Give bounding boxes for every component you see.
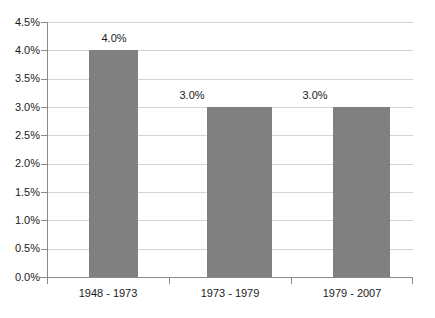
category-label-1973-1979: 1973 - 1979 [175, 288, 285, 299]
x-tick-boundary-2 [291, 278, 292, 284]
value-label-1948-1973: 4.0% [83, 33, 145, 44]
category-label-1979-2007: 1979 - 2007 [297, 288, 407, 299]
y-axis-label-4.0: 4.0% [2, 45, 40, 56]
y-axis-label-2.0: 2.0% [2, 158, 40, 169]
y-axis-label-4.5: 4.5% [2, 17, 40, 28]
gridline-4.5 [47, 22, 413, 23]
y-axis-label-3.5: 3.5% [2, 73, 40, 84]
y-axis-label-0.5: 0.5% [2, 243, 40, 254]
y-axis-label-1.5: 1.5% [2, 187, 40, 198]
y-axis-label-0.0: 0.0% [2, 272, 40, 283]
x-tick-start [47, 278, 48, 284]
value-label-1973-1979: 3.0% [161, 90, 223, 101]
x-tick-boundary-1 [169, 278, 170, 284]
y-axis-line [47, 22, 48, 278]
value-label-1979-2007: 3.0% [284, 90, 346, 101]
x-axis-line [40, 277, 413, 278]
plot-area [47, 22, 413, 277]
bar-1979-2007 [333, 107, 390, 277]
bar-chart: 4.5% 4.0% 3.5% 3.0% 2.5% 2.0% 1.5% 1.0% … [0, 0, 435, 318]
y-axis-labels: 4.5% 4.0% 3.5% 3.0% 2.5% 2.0% 1.5% 1.0% … [0, 0, 40, 318]
x-tick-end [412, 278, 413, 284]
y-axis-label-1.0: 1.0% [2, 215, 40, 226]
y-axis-label-3.0: 3.0% [2, 102, 40, 113]
y-axis-label-2.5: 2.5% [2, 130, 40, 141]
bar-1948-1973 [89, 50, 138, 277]
category-label-1948-1973: 1948 - 1973 [53, 288, 163, 299]
bar-1973-1979 [207, 107, 272, 277]
